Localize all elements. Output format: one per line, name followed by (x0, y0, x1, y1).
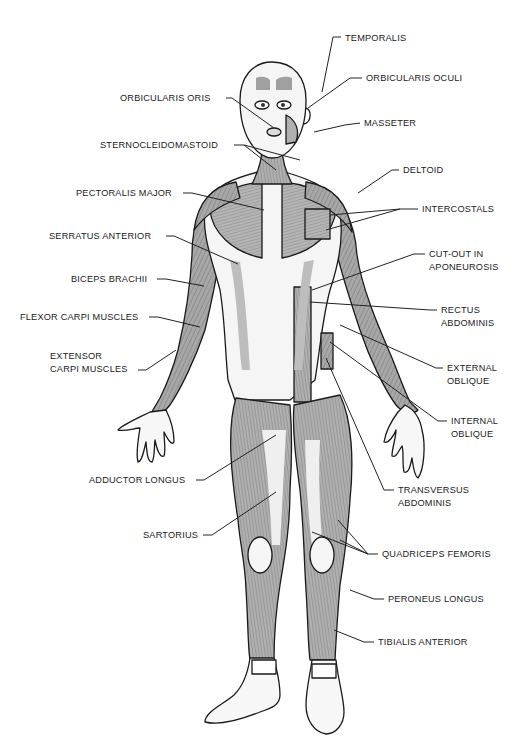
label-orbicularis-oculi: ORBICULARIS OCULI (366, 72, 462, 85)
label-text: SERRATUS ANTERIOR (49, 230, 151, 243)
label-sartorius: SARTORIUS (143, 529, 198, 542)
label-deltoid: DELTOID (403, 164, 443, 177)
label-text: FLEXOR CARPI MUSCLES (20, 311, 138, 324)
label-text: TEMPORALIS (345, 32, 406, 45)
label-external-oblique: EXTERNALOBLIQUE (447, 362, 497, 388)
label-text: SARTORIUS (143, 529, 198, 542)
label-text: INTERNAL (451, 415, 498, 428)
label-orbicularis-oris: ORBICULARIS ORIS (120, 92, 211, 105)
body-outline (118, 62, 424, 734)
left-hand (118, 410, 174, 462)
label-text: MASSETER (364, 117, 416, 130)
label-sternocleidomastoid: STERNOCLEIDOMASTOID (100, 139, 218, 152)
left-knee (248, 537, 272, 573)
label-text: RECTUS (441, 304, 494, 317)
label-text: ORBICULARIS OCULI (366, 72, 462, 85)
label-text: CUT-OUT IN (429, 248, 499, 261)
label-flexor-carpi: FLEXOR CARPI MUSCLES (20, 311, 138, 324)
label-text: QUADRICEPS FEMORIS (382, 548, 491, 561)
label-text: DELTOID (403, 164, 443, 177)
label-internal-oblique: INTERNALOBLIQUE (451, 415, 498, 441)
label-text: OBLIQUE (447, 375, 497, 388)
label-text: CARPI MUSCLES (50, 363, 128, 376)
label-text: INTERCOSTALS (422, 203, 494, 216)
label-rectus-abdominis: RECTUSABDOMINIS (441, 304, 494, 330)
label-text: TRANSVERSUS (398, 484, 469, 497)
label-text: ABDOMINIS (441, 317, 494, 330)
oblique-window (321, 333, 333, 369)
label-serratus-anterior: SERRATUS ANTERIOR (49, 230, 151, 243)
label-peroneus-longus: PERONEUS LONGUS (388, 593, 484, 606)
label-cut-out-aponeurosis: CUT-OUT INAPONEUROSIS (429, 248, 499, 274)
label-text: APONEUROSIS (429, 261, 499, 274)
label-masseter: MASSETER (364, 117, 416, 130)
label-biceps-brachii: BICEPS BRACHII (71, 273, 147, 286)
label-text: EXTENSOR (50, 350, 128, 363)
label-text: ORBICULARIS ORIS (120, 92, 211, 105)
label-text: ABDOMINIS (398, 497, 469, 510)
label-pectoralis-major: PECTORALIS MAJOR (76, 187, 172, 200)
label-quadriceps-femoris: QUADRICEPS FEMORIS (382, 548, 491, 561)
label-tibialis-anterior: TIBIALIS ANTERIOR (378, 636, 468, 649)
head (240, 62, 306, 158)
right-knee (310, 537, 334, 573)
right-hand (384, 405, 424, 478)
label-text: PECTORALIS MAJOR (76, 187, 172, 200)
right-leg (293, 395, 351, 660)
label-text: ADDUCTOR LONGUS (89, 474, 185, 487)
label-text: TIBIALIS ANTERIOR (378, 636, 468, 649)
label-adductor-longus: ADDUCTOR LONGUS (89, 474, 185, 487)
label-intercostals: INTERCOSTALS (422, 203, 494, 216)
label-extensor-carpi: EXTENSORCARPI MUSCLES (50, 350, 128, 376)
label-text: OBLIQUE (451, 428, 498, 441)
label-text: STERNOCLEIDOMASTOID (100, 139, 218, 152)
label-text: EXTERNAL (447, 362, 497, 375)
label-text: PERONEUS LONGUS (388, 593, 484, 606)
label-transversus-abdominis: TRANSVERSUSABDOMINIS (398, 484, 469, 510)
intercostals-window (305, 209, 330, 239)
label-temporalis: TEMPORALIS (345, 32, 406, 45)
label-text: BICEPS BRACHII (71, 273, 147, 286)
